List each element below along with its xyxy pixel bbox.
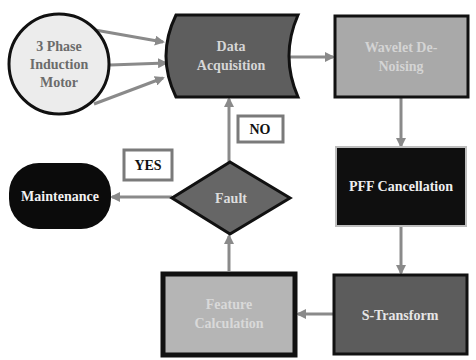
node-stransform-label: S-Transform <box>362 308 439 323</box>
flowchart: 3 Phase Induction Motor Data Acquisition… <box>0 0 476 360</box>
node-feature-label-1: Feature <box>206 297 252 312</box>
node-feature: Feature Calculation <box>163 274 295 355</box>
node-acquisition: Data Acquisition <box>166 15 298 97</box>
node-motor-label-1: 3 Phase <box>36 39 82 54</box>
node-feature-label-2: Calculation <box>194 316 263 331</box>
node-pff: PFF Cancellation <box>336 147 466 226</box>
node-wavelet: Wavelet De- Noising <box>335 16 468 97</box>
node-fault-label: Fault <box>215 191 247 206</box>
node-maintenance-label: Maintenance <box>21 189 99 204</box>
node-wavelet-label-1: Wavelet De- <box>365 40 438 55</box>
node-motor: 3 Phase Induction Motor <box>9 14 109 114</box>
node-wavelet-label-2: Noising <box>378 59 423 74</box>
node-maintenance: Maintenance <box>9 163 111 229</box>
node-stransform: S-Transform <box>334 275 467 354</box>
node-motor-label-3: Motor <box>40 75 78 90</box>
yes-label: YES <box>124 150 172 180</box>
node-motor-label-2: Induction <box>30 57 89 72</box>
node-acquisition-label-1: Data <box>217 39 246 54</box>
no-label: NO <box>238 116 283 142</box>
edge-motor-to-acquisition-2 <box>110 63 166 65</box>
yes-label-text: YES <box>134 158 161 173</box>
node-acquisition-label-2: Acquisition <box>197 58 266 73</box>
no-label-text: NO <box>250 122 271 137</box>
edge-motor-to-acquisition-1 <box>95 30 163 42</box>
node-fault: Fault <box>172 162 290 234</box>
node-pff-label: PFF Cancellation <box>349 179 453 194</box>
